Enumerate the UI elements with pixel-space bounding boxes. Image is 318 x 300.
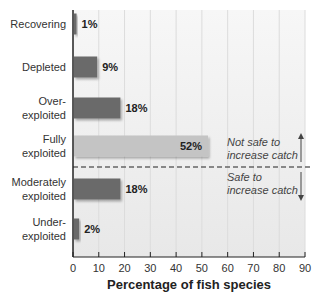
- category-label: Moderately: [12, 176, 67, 188]
- category-label: exploited: [22, 230, 66, 242]
- x-tick-label: 90: [299, 262, 311, 274]
- bar-rect: [74, 57, 97, 78]
- value-label: 1%: [82, 18, 98, 30]
- x-tick-label: 30: [144, 262, 156, 274]
- x-tick-label: 10: [93, 262, 105, 274]
- value-label: 52%: [180, 140, 202, 152]
- annotation-not-safe: increase catch: [227, 149, 298, 161]
- x-tick-label: 20: [118, 262, 130, 274]
- plot-background: [73, 10, 305, 257]
- bar-rect: [74, 179, 120, 200]
- value-label: 18%: [125, 183, 147, 195]
- category-label: exploited: [22, 109, 66, 121]
- x-tick-label: 60: [222, 262, 234, 274]
- value-label: 9%: [102, 61, 118, 73]
- x-tick-label: 40: [170, 262, 182, 274]
- category-label: Over-: [39, 95, 67, 107]
- x-tick-label: 50: [196, 262, 208, 274]
- bar-chart: 1%9%18%52%18%2% RecoveringDepletedOver-e…: [0, 0, 318, 300]
- x-tick-label: 0: [70, 262, 76, 274]
- annotation-safe: increase catch: [227, 184, 298, 196]
- value-label: 2%: [84, 223, 100, 235]
- category-label: Recovering: [10, 18, 66, 30]
- annotation-safe: Safe to: [227, 171, 262, 183]
- category-label: Depleted: [22, 61, 66, 73]
- bar-fully-exploited: 52%: [74, 136, 208, 157]
- category-label: Fully: [43, 133, 67, 145]
- x-tick-label: 80: [273, 262, 285, 274]
- bar-rect: [74, 14, 77, 35]
- category-label: exploited: [22, 147, 66, 159]
- bar-rect: [74, 219, 79, 240]
- x-tick-label: 70: [247, 262, 259, 274]
- annotation-not-safe: Not safe to: [227, 136, 280, 148]
- bar-rect: [74, 98, 120, 119]
- x-axis-title: Percentage of fish species: [107, 277, 271, 292]
- category-labels: RecoveringDepletedOver-exploitedFullyexp…: [10, 18, 66, 242]
- category-label: Under-: [32, 216, 66, 228]
- category-label: exploited: [22, 190, 66, 202]
- value-label: 18%: [125, 102, 147, 114]
